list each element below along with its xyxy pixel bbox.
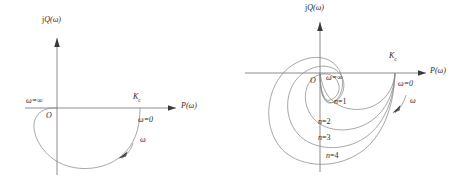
- x-axis-label-arg: (ω): [435, 66, 446, 75]
- x-axis-arrowhead: [168, 105, 176, 111]
- y-axis-arrowhead: [317, 22, 323, 31]
- figure-root: jQ(ω) P(ω) O ω=∞ Kc ω=0 ω: [0, 0, 459, 184]
- x-axis-label-arg: (ω): [186, 101, 197, 110]
- kc-label-sub: c: [394, 56, 396, 62]
- y-axis-label: jQ(ω): [42, 16, 61, 24]
- y-axis-label-arg: (ω): [313, 3, 324, 12]
- curve-label-n2-value: =2: [322, 117, 331, 126]
- origin-label: O: [46, 112, 52, 120]
- y-axis-label-arg: (ω): [50, 15, 61, 24]
- omega-direction-label: ω: [410, 97, 416, 105]
- omega-infinity-label: ω=∞: [326, 74, 343, 82]
- curve-label-n1: n=1: [334, 98, 347, 106]
- omega-zero-label: ω=0: [398, 80, 413, 88]
- right-plot-svg: [230, 0, 459, 184]
- curve-label-n4: n=4: [326, 152, 339, 160]
- x-axis-label: P(ω): [181, 102, 197, 110]
- y-axis-label: jQ(ω): [305, 4, 324, 12]
- curve-label-n2: n=2: [318, 118, 331, 126]
- left-plot-svg: [0, 0, 230, 184]
- omega-infinity-label: ω=∞: [26, 97, 43, 105]
- nyquist-plot-right: jQ(ω) P(ω) O ω=∞ Kc ω=0 ω n=1 n=2 n=3 n=…: [230, 0, 459, 184]
- curve-label-n1-value: =1: [338, 97, 347, 106]
- y-axis-arrowhead: [54, 38, 60, 47]
- kc-label: Kc: [133, 93, 141, 103]
- origin-label: O: [310, 77, 316, 85]
- x-axis-arrowhead: [418, 70, 426, 76]
- kc-label: Kc: [389, 52, 397, 62]
- x-axis-label: P(ω): [430, 67, 446, 75]
- curve-label-n4-value: =4: [330, 151, 339, 160]
- omega-direction-label: ω: [140, 136, 146, 144]
- curve-label-n3: n=3: [318, 134, 331, 142]
- curve-label-n3-value: =3: [322, 133, 331, 142]
- nyquist-plot-left: jQ(ω) P(ω) O ω=∞ Kc ω=0 ω: [0, 0, 230, 184]
- kc-label-sub: c: [138, 97, 140, 103]
- omega-zero-label: ω=0: [138, 116, 153, 124]
